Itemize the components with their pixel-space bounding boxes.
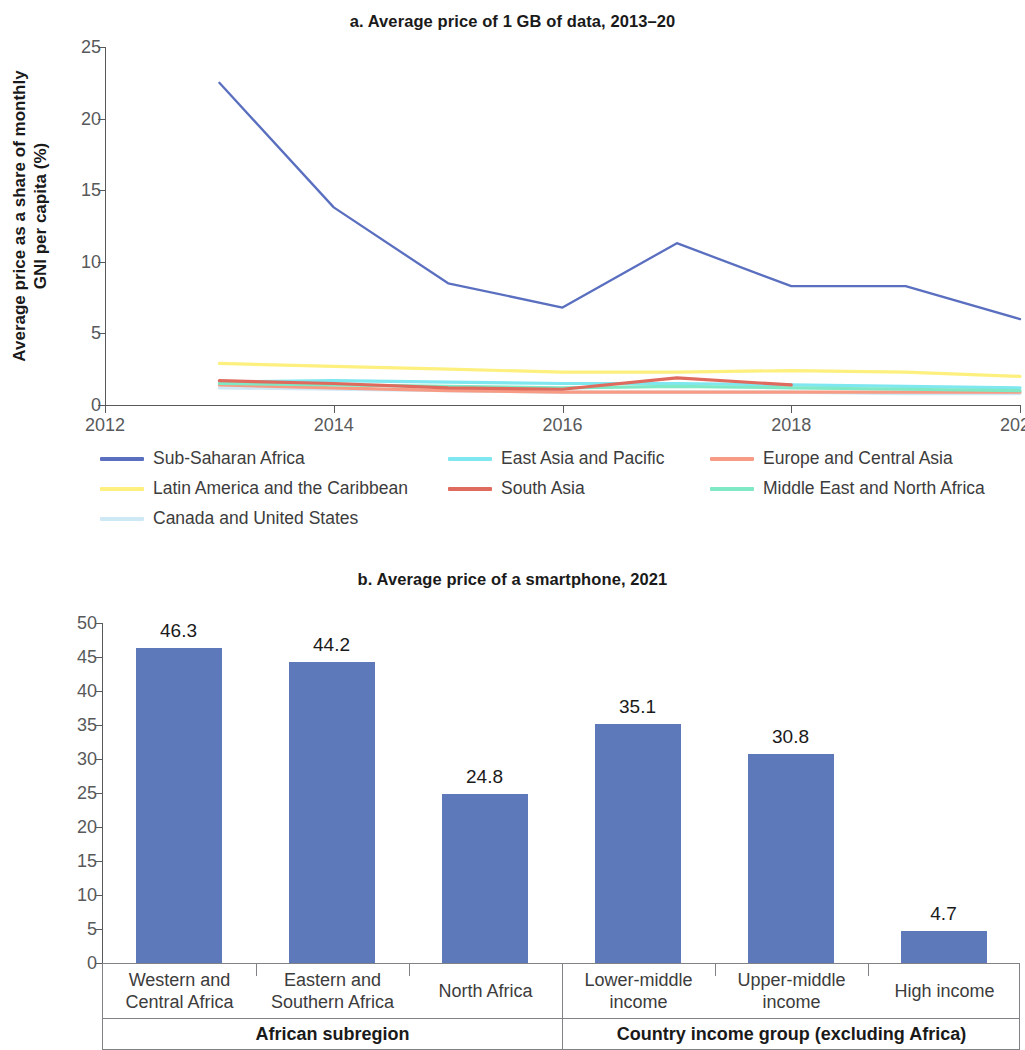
legend-item-east-asia-and-pacific: East Asia and Pacific [448, 448, 710, 469]
panel-a-y-tick-label: 10 [55, 251, 101, 272]
panel-b-y-tick-mark [95, 929, 102, 930]
panel-b-group-label: Country income group (excluding Africa) [562, 1019, 1021, 1049]
panel-a-y-tick-mark [98, 405, 105, 406]
legend-swatch-icon [710, 487, 754, 491]
panel-b-category-separator [409, 964, 410, 976]
legend-label: Canada and United States [153, 508, 358, 529]
bar-value-label: 46.3 [160, 620, 197, 642]
legend-swatch-icon [100, 487, 144, 491]
panel-b-category-band: Western and Central AfricaEastern and So… [102, 963, 1020, 1019]
legend-swatch-icon [448, 487, 492, 491]
bar-value-label: 35.1 [619, 696, 656, 718]
panel-a-x-tick-mark [334, 405, 335, 413]
legend-row: Latin America and the CaribbeanSouth Asi… [100, 478, 1020, 508]
panel-b-y-tick-mark [95, 793, 102, 794]
legend-swatch-icon [100, 457, 144, 461]
panel-b-y-tick-label: 40 [51, 681, 97, 702]
panel-a-y-tick-label: 15 [55, 180, 101, 201]
panel-a-line-latin-america-and-the-caribbean [219, 363, 1020, 376]
panel-a-y-tick-label: 0 [55, 395, 101, 416]
legend-label: East Asia and Pacific [501, 448, 664, 469]
panel-a-line-sub-saharan-africa [219, 83, 1020, 319]
panel-b-y-tick-mark [95, 691, 102, 692]
panel-a-x-tick-label: 2012 [85, 415, 125, 436]
panel-a-y-axis-label: Average price as a share of monthly GNI … [10, 40, 51, 392]
legend-swatch-icon [100, 517, 144, 521]
panel-b-y-tick-label: 30 [51, 749, 97, 770]
panel-b-y-tick-label: 15 [51, 851, 97, 872]
panel-b-category-separator [868, 964, 869, 976]
panel-b-group-label: African subregion [103, 1019, 562, 1049]
panel-a-y-tick-mark [98, 262, 105, 263]
bar [595, 724, 681, 963]
panel-b-category-separator [256, 964, 257, 976]
panel-b-y-tick-label: 20 [51, 817, 97, 838]
legend-row: Sub-Saharan AfricaEast Asia and PacificE… [100, 448, 1020, 478]
panel-b-y-tick-mark [95, 657, 102, 658]
panel-b-y-tick-mark [95, 759, 102, 760]
panel-b-group-divider [562, 964, 563, 1018]
panel-b-y-axis-line [102, 623, 103, 963]
panel-b-y-tick-label: 0 [51, 953, 97, 974]
panel-b-category-label: Lower-middle income [562, 964, 715, 1018]
panel-a-x-tick-mark [791, 405, 792, 413]
legend-item-sub-saharan-africa: Sub-Saharan Africa [100, 448, 448, 469]
panel-b-group-divider [562, 1019, 563, 1049]
panel-b-category-label: High income [868, 964, 1021, 1018]
panel-a-x-tick-label: 2014 [314, 415, 354, 436]
panel-b-y-tick-mark [95, 623, 102, 624]
panel-b-title: b. Average price of a smartphone, 2021 [0, 570, 1025, 589]
panel-a-plot-area: 051015202520122014201620182020 [105, 47, 1020, 405]
panel-a-legend: Sub-Saharan AfricaEast Asia and PacificE… [100, 448, 1020, 538]
panel-b-category-separator [715, 964, 716, 976]
legend-swatch-icon [448, 457, 492, 461]
panel-a-x-tick-mark [563, 405, 564, 413]
panel-a-y-tick-label: 20 [55, 108, 101, 129]
panel-a-x-tick-label: 2020 [1000, 415, 1025, 436]
bar-value-label: 44.2 [313, 634, 350, 656]
panel-b-y-tick-label: 35 [51, 715, 97, 736]
legend-swatch-icon [710, 457, 754, 461]
panel-b-y-tick-mark [95, 895, 102, 896]
bar-value-label: 30.8 [772, 726, 809, 748]
panel-a-y-axis-line [105, 47, 106, 405]
panel-a-y-tick-mark [98, 119, 105, 120]
legend-item-canada-and-united-states: Canada and United States [100, 508, 448, 529]
panel-b-group-band: African subregionCountry income group (e… [102, 1019, 1020, 1050]
legend-label: Europe and Central Asia [763, 448, 953, 469]
legend-item-europe-and-central-asia: Europe and Central Asia [710, 448, 1010, 469]
panel-a-y-tick-mark [98, 333, 105, 334]
panel-a-title: a. Average price of 1 GB of data, 2013–2… [0, 12, 1025, 31]
panel-b-y-tick-mark [95, 963, 102, 964]
panel-b-plot-area: 0510152025303540455046.344.224.835.130.8… [102, 623, 1020, 963]
panel-b-y-tick-mark [95, 725, 102, 726]
panel-b-y-tick-label: 25 [51, 783, 97, 804]
bar-value-label: 4.7 [930, 903, 956, 925]
bar [901, 931, 987, 963]
bar-value-label: 24.8 [466, 766, 503, 788]
panel-a-x-tick-mark [105, 405, 106, 413]
panel-a-series-group [105, 47, 1020, 405]
bar [442, 794, 528, 963]
legend-label: Latin America and the Caribbean [153, 478, 408, 499]
panel-b-category-label: North Africa [409, 964, 562, 1018]
panel-b-y-tick-label: 10 [51, 885, 97, 906]
legend-row: Canada and United States [100, 508, 1020, 538]
panel-b-y-tick-mark [95, 827, 102, 828]
legend-label: South Asia [501, 478, 585, 499]
panel-b-y-tick-label: 5 [51, 919, 97, 940]
legend-item-south-asia: South Asia [448, 478, 710, 499]
legend-label: Sub-Saharan Africa [153, 448, 305, 469]
legend-label: Middle East and North Africa [763, 478, 985, 499]
panel-b-category-label: Western and Central Africa [103, 964, 256, 1018]
panel-b-category-label: Upper-middle income [715, 964, 868, 1018]
legend-item-latin-america-and-the-caribbean: Latin America and the Caribbean [100, 478, 448, 499]
panel-a-x-tick-mark [1020, 405, 1021, 413]
panel-a-x-tick-label: 2016 [542, 415, 582, 436]
bar [289, 662, 375, 963]
panel-b-y-tick-label: 50 [51, 613, 97, 634]
panel-b-category-label: Eastern and Southern Africa [256, 964, 409, 1018]
bar [748, 754, 834, 963]
panel-a-y-tick-label: 5 [55, 323, 101, 344]
panel-a-x-tick-label: 2018 [771, 415, 811, 436]
